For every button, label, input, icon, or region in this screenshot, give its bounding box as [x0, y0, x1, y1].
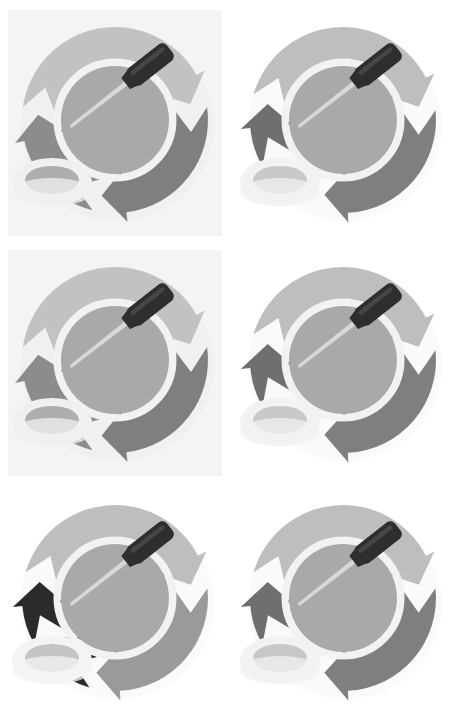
- cycle-icon-bottom-left-graphic: [8, 488, 222, 714]
- cycle-icon-middle-left: [8, 250, 222, 476]
- cycle-icon-top-left: [8, 10, 222, 236]
- cycle-icon-top-left-graphic: [8, 10, 222, 236]
- cycle-icon-middle-right-graphic: [236, 250, 450, 476]
- cycle-icon-top-right-graphic: [236, 10, 450, 236]
- pivot-oval: [12, 636, 92, 684]
- pivot-oval: [240, 398, 320, 446]
- cycle-icon-middle-right: [236, 250, 450, 476]
- cycle-icon-top-right: [236, 10, 450, 236]
- cycle-icon-bottom-right: [236, 488, 450, 714]
- cycle-icon-middle-left-graphic: [8, 250, 222, 476]
- pivot-oval: [12, 158, 92, 206]
- cycle-icon-bottom-right-graphic: [236, 488, 450, 714]
- pivot-oval: [240, 636, 320, 684]
- cycle-icon-bottom-left: [8, 488, 222, 714]
- icon-sheet: [0, 0, 458, 723]
- pivot-oval: [240, 158, 320, 206]
- pivot-oval: [12, 398, 92, 446]
